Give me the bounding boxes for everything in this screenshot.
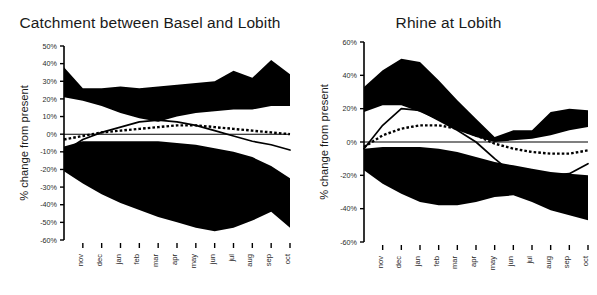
x-axis-tick-label: apr [170, 254, 179, 265]
chart-panel-left: Catchment between Basel and Lobith 50%40… [0, 0, 300, 295]
x-axis-tick-label: jun [506, 256, 515, 267]
uncertainty-band-lower [64, 141, 290, 231]
x-axis-tick-label: nov [376, 256, 385, 268]
uncertainty-band-lower [364, 147, 588, 220]
y-axis-title: % change from present [318, 83, 330, 200]
series-line-dotted [64, 125, 290, 139]
x-axis-tick-label: apr [469, 256, 478, 267]
x-axis-tick-label: aug [245, 254, 254, 267]
y-axis-title: % change from present [18, 84, 30, 201]
x-axis-tick-label: jun [208, 254, 217, 265]
y-axis-tick-label: 10% [43, 112, 58, 121]
x-axis-tick-label: may [189, 254, 198, 269]
y-axis-tick-label: 50% [43, 42, 58, 51]
x-axis-tick-label: may [488, 256, 497, 271]
y-axis-tick-label: -40% [40, 200, 57, 209]
y-axis-tick-label: -40% [340, 204, 357, 213]
x-axis-tick-label: oct [283, 253, 292, 264]
y-axis-tick-label: 20% [43, 95, 58, 104]
figure-canvas: Catchment between Basel and Lobith 50%40… [0, 0, 597, 295]
x-axis-tick-label: jan [114, 254, 123, 265]
x-axis-tick-label: mar [450, 256, 459, 270]
y-axis-tick-label: 0% [347, 138, 358, 147]
y-axis-tick-label: 40% [343, 71, 358, 80]
y-axis-tick-label: -60% [40, 236, 57, 245]
plot-area-right: 60%40%20%0%-20%-40%-60%% change from pre… [300, 0, 597, 295]
y-axis-tick-label: -50% [40, 218, 57, 227]
y-axis-tick-label: 0% [47, 130, 58, 139]
y-axis-tick-label: 40% [43, 59, 58, 68]
y-axis-tick-label: -20% [340, 171, 357, 180]
x-axis-tick-label: feb [432, 256, 441, 267]
x-axis-tick-label: jan [413, 256, 422, 267]
x-axis-tick-label: mar [151, 254, 160, 268]
x-axis-tick-label: aug [544, 256, 553, 269]
x-axis-tick-label: sep [264, 254, 273, 266]
y-axis-tick-label: 60% [343, 38, 358, 47]
x-axis-tick-label: oct [581, 255, 590, 266]
x-axis-tick-label: jul [227, 254, 236, 263]
y-axis-tick-label: -30% [40, 183, 57, 192]
y-axis-tick-label: 20% [343, 104, 358, 113]
x-axis-tick-label: dec [394, 256, 403, 268]
y-axis-tick-label: -20% [40, 165, 57, 174]
x-axis-tick-label: sep [562, 256, 571, 268]
y-axis-tick-label: -60% [340, 238, 357, 247]
x-axis-tick-label: jul [525, 256, 534, 265]
y-axis-tick-label: -10% [40, 147, 57, 156]
chart-panel-right: Rhine at Lobith 60%40%20%0%-20%-40%-60%%… [300, 0, 597, 295]
plot-area-left: 50%40%30%20%10%0%-10%-20%-30%-40%-50%-60… [0, 0, 300, 295]
uncertainty-band-upper [64, 60, 290, 122]
x-axis-tick-label: feb [132, 254, 141, 265]
x-axis-tick-label: dec [95, 254, 104, 266]
y-axis-tick-label: 30% [43, 77, 58, 86]
x-axis-tick-label: nov [76, 254, 85, 266]
